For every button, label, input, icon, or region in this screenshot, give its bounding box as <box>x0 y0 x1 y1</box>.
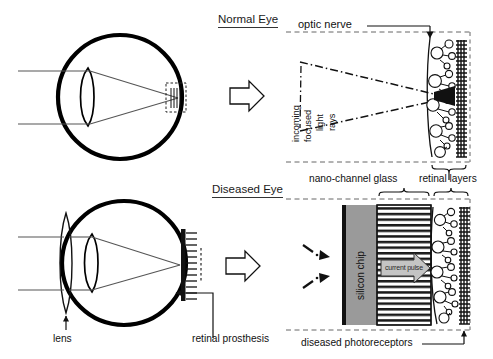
label-nano-channel-glass: nano-channel glass <box>309 174 397 184</box>
label-incoming: incoming <box>291 105 301 142</box>
label-focused: focused <box>303 110 313 142</box>
label-light: light <box>315 114 325 131</box>
label-lens: lens <box>53 334 72 344</box>
normal-retina-detail <box>286 26 470 180</box>
label-silicon-chip: silicon chip <box>355 251 366 300</box>
panel-title-normal-eye: Normal Eye <box>218 14 278 28</box>
label-diseased-photoreceptors: diseased photoreceptors <box>301 338 413 348</box>
diseased-eye-diagram <box>18 201 213 338</box>
transition-arrow-top <box>230 81 264 111</box>
transition-arrow-bottom <box>226 251 260 281</box>
normal-eye-diagram <box>18 35 186 159</box>
panel-title-diseased-eye: Diseased Eye <box>212 184 283 198</box>
label-retinal-prosthesis: retinal prosthesis <box>192 334 269 344</box>
label-retinal-layers: retinal layers <box>419 174 477 184</box>
label-optic-nerve: optic nerve <box>298 19 352 30</box>
figure-canvas: Normal Eye Diseased Eye optic nerve inco… <box>0 0 493 359</box>
diseased-retina-detail <box>286 188 470 344</box>
label-rays: rays <box>327 114 337 131</box>
label-current-pulse: current pulse <box>385 264 423 271</box>
